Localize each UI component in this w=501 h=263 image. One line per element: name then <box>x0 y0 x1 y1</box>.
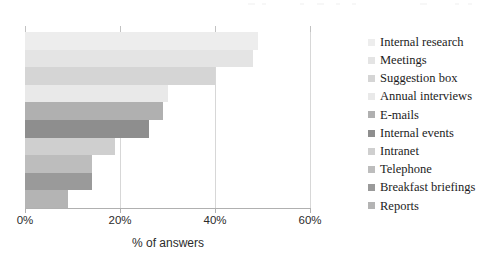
legend-item-label: Internal events <box>380 127 454 140</box>
legend-item-reports: Reports <box>368 197 501 215</box>
legend-swatch-icon <box>368 111 375 118</box>
bar-fill <box>25 120 149 138</box>
legend-item-annual-interviews: Annual interviews <box>368 88 501 106</box>
chart-legend: Internal researchMeetingsSuggestion boxA… <box>368 33 501 215</box>
bar-6 <box>25 138 115 156</box>
legend-item-label: Suggestion box <box>380 72 457 85</box>
x-axis-title: % of answers <box>132 236 204 250</box>
x-tick-20 <box>120 208 121 213</box>
legend-swatch-icon <box>368 75 375 82</box>
scan-speck <box>248 3 255 5</box>
scan-speck <box>352 3 356 5</box>
bar-9 <box>25 190 68 208</box>
legend-item-label: Internal research <box>380 36 464 49</box>
legend-item-label: Breakfast briefings <box>380 181 475 194</box>
scan-speck <box>317 3 324 5</box>
legend-swatch-icon <box>368 202 375 209</box>
legend-item-intranet: Intranet <box>368 142 501 160</box>
legend-swatch-icon <box>368 93 375 100</box>
bar-fill <box>25 85 168 103</box>
bar-7 <box>25 155 92 173</box>
legend-item-internal-events: Internal events <box>368 124 501 142</box>
bar-1 <box>25 50 253 68</box>
legend-item-breakfast-briefings: Breakfast briefings <box>368 179 501 197</box>
bar-fill <box>25 173 92 191</box>
x-tick-label-20: 20% <box>108 214 131 226</box>
bar-3 <box>25 85 168 103</box>
legend-item-label: Reports <box>380 200 419 213</box>
plot-area <box>25 32 310 208</box>
x-tick-40 <box>215 208 216 213</box>
bar-fill <box>25 102 163 120</box>
scan-speck <box>262 3 266 5</box>
legend-item-telephone: Telephone <box>368 160 501 178</box>
x-tick-label-40: 40% <box>203 214 226 226</box>
legend-item-suggestion-box: Suggestion box <box>368 69 501 87</box>
legend-swatch-icon <box>368 57 375 64</box>
bar-fill <box>25 155 92 173</box>
grid-top-tick-40 <box>215 26 216 32</box>
x-axis-line <box>25 208 311 209</box>
legend-swatch-icon <box>368 184 375 191</box>
legend-item-label: Intranet <box>380 145 419 158</box>
legend-item-label: Annual interviews <box>380 90 472 103</box>
bar-fill <box>25 190 68 208</box>
scan-speck <box>455 3 459 5</box>
bar-8 <box>25 173 92 191</box>
x-tick-label-60: 60% <box>298 214 321 226</box>
grid-top-tick-0 <box>25 26 26 32</box>
legend-item-e-mails: E-mails <box>368 106 501 124</box>
legend-item-label: Telephone <box>380 163 432 176</box>
grid-top-tick-20 <box>120 26 121 32</box>
bar-5 <box>25 120 149 138</box>
x-tick-0 <box>25 208 26 213</box>
scan-speck <box>420 3 427 5</box>
gridline-60 <box>310 32 311 208</box>
legend-item-label: Meetings <box>380 54 427 67</box>
bar-fill <box>25 138 115 156</box>
scan-speck <box>336 3 340 5</box>
bar-fill <box>25 50 253 68</box>
legend-swatch-icon <box>368 148 375 155</box>
scan-speck <box>468 3 472 5</box>
bar-4 <box>25 102 163 120</box>
chart-figure: 0%20%40%60% % of answers Internal resear… <box>0 0 501 263</box>
bar-0 <box>25 32 258 50</box>
x-tick-60 <box>310 208 311 213</box>
legend-swatch-icon <box>368 130 375 137</box>
legend-item-meetings: Meetings <box>368 51 501 69</box>
scan-speck <box>300 3 304 5</box>
legend-item-internal-research: Internal research <box>368 33 501 51</box>
scan-artifact-strip <box>0 0 501 10</box>
bar-fill <box>25 32 258 50</box>
bar-2 <box>25 67 215 85</box>
grid-top-tick-60 <box>310 26 311 32</box>
legend-swatch-icon <box>368 166 375 173</box>
legend-swatch-icon <box>368 39 375 46</box>
bar-fill <box>25 67 215 85</box>
x-tick-label-0: 0% <box>17 214 34 226</box>
legend-item-label: E-mails <box>380 109 419 122</box>
